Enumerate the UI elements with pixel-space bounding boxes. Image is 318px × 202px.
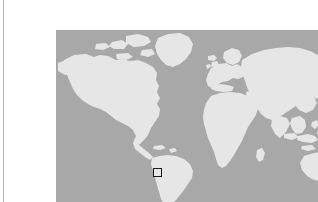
region-of-interest-marker: [153, 168, 162, 177]
page-left-rule: [3, 0, 4, 202]
world-map-figure: [56, 30, 318, 202]
world-map-svg: [56, 30, 318, 202]
